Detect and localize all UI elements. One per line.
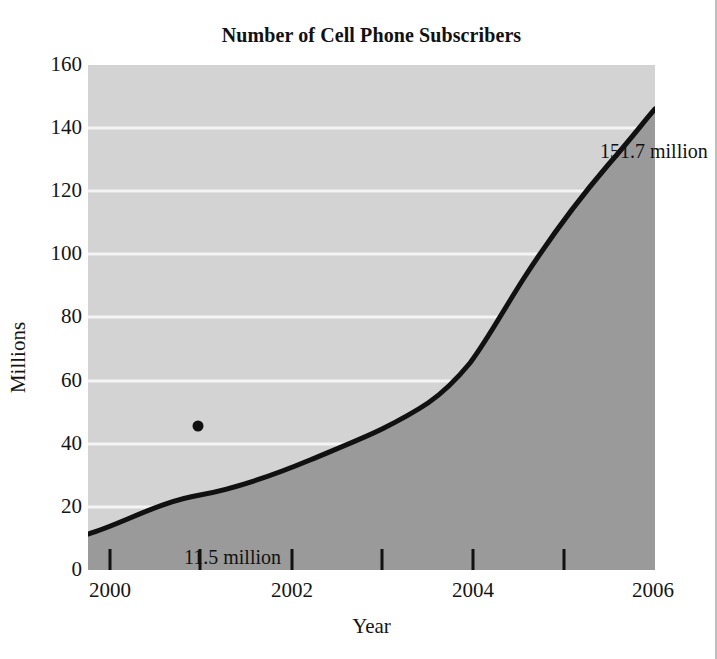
y-tick-label-160: 160 — [8, 54, 82, 75]
x-tick-label-2004: 2004 — [428, 578, 518, 602]
x-tick-label-2002: 2002 — [247, 578, 337, 602]
y-tick-label-100: 100 — [8, 243, 82, 264]
y-tick-label-0: 0 — [8, 559, 82, 580]
annotation-end-value: 151.7 million — [600, 141, 708, 161]
y-tick-label-120: 120 — [8, 180, 82, 201]
plot-area: 11.5 million 151.7 million — [88, 65, 655, 570]
y-axis-title: Millions — [6, 278, 31, 438]
y-tick-label-140: 140 — [8, 117, 82, 138]
chart-title: Number of Cell Phone Subscribers — [88, 24, 655, 47]
data-point-dot — [193, 421, 204, 432]
annotation-start-value: 11.5 million — [184, 547, 281, 567]
y-axis: 160 140 120 100 80 60 40 20 0 Millions — [0, 65, 82, 570]
x-tick-label-2006: 2006 — [608, 578, 698, 602]
x-tick-label-2000: 2000 — [65, 578, 155, 602]
x-axis-title: Year — [88, 614, 655, 639]
chart-figure: Number of Cell Phone Subscribers 160 140… — [0, 0, 717, 659]
plot-svg — [88, 65, 655, 570]
y-tick-label-20: 20 — [8, 496, 82, 517]
x-axis: 2000 2002 2004 2006 — [88, 578, 655, 608]
